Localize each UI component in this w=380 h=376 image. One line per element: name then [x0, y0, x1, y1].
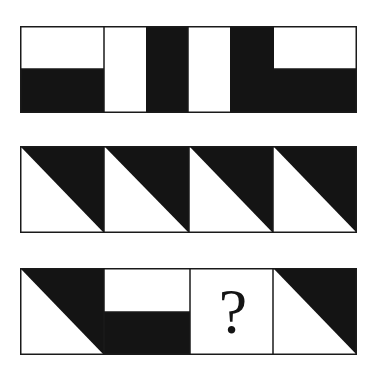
row-2-figure [20, 146, 357, 233]
cell-4-black-bottom [274, 69, 357, 113]
cell-2-black-right [146, 26, 188, 113]
cell-2-black-bottom [104, 312, 190, 355]
cell-4-black-left [230, 26, 274, 113]
puzzle-row-3: ? [20, 268, 357, 355]
puzzle-row-2 [20, 146, 357, 233]
row-3-figure [20, 268, 357, 355]
cell-1-black-bottom [20, 69, 104, 113]
row-1-figure [20, 26, 357, 113]
question-mark: ? [191, 268, 275, 355]
puzzle-row-1 [20, 26, 357, 113]
